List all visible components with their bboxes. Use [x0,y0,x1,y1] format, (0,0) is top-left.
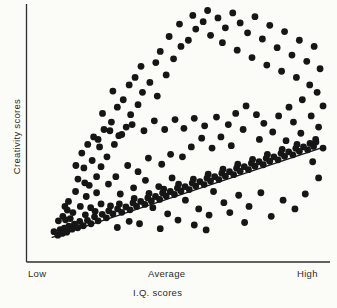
scatter-point [155,183,162,190]
scatter-point [111,141,118,148]
scatter-point [293,74,300,81]
scatter-point [67,215,74,222]
scatter-points-layer [51,7,327,238]
scatter-point [114,104,121,111]
scatter-point [315,124,322,131]
scatter-point [210,188,217,195]
scatter-point [123,124,130,131]
scatter-point [201,122,208,129]
scatter-point [127,111,134,118]
x-tick-label-high: High [297,268,318,279]
scatter-point [192,26,199,33]
scatter-point [299,96,306,103]
scatter-point [320,103,327,110]
scatter-point [286,104,293,111]
scatter-point [185,37,192,44]
scatter-point [249,54,256,61]
scatter-point [234,47,241,54]
scatter-point [169,174,176,181]
scatter-point [280,197,287,204]
scatter-point [126,218,133,225]
scatter-point [303,58,310,65]
scatter-point [198,135,205,142]
scatter-point [189,12,196,19]
scatter-point [83,193,90,200]
scatter-point [142,177,149,184]
scatter-point [257,189,264,196]
scatter-point [308,112,315,119]
scatter-point [182,197,189,204]
scatter-point [209,145,216,152]
scatter-point [266,22,273,29]
y-axis-title: Creativity scores [11,92,22,182]
scatter-point [283,137,290,144]
scatter-point [157,48,164,55]
scatter-point [166,33,173,40]
scatter-point [279,146,286,153]
scatter-point [130,184,137,191]
scatter-point [229,10,236,17]
scatter-point [188,143,195,150]
scatter-point [268,213,275,220]
scatter-point [118,131,125,138]
scatter-point [95,136,102,143]
scatter-point [161,126,168,133]
scatter-point [309,158,316,165]
scatter-point [249,156,256,163]
scatter-point [205,171,212,178]
scatter-point [259,36,266,43]
scatter-point [176,21,183,28]
scatter-point [120,96,127,103]
scatter-point [84,141,91,148]
x-axis-title: I.Q. scores [133,287,182,298]
scatter-point [175,217,182,224]
scatter-point [241,219,248,226]
scatter-point [243,103,250,110]
scatter-point [72,188,79,195]
scatter-point [81,179,88,186]
scatter-point [104,153,111,160]
scatter-point [289,52,296,59]
scatter-point [253,111,260,118]
scatter-point [191,115,198,122]
x-tick-label-low: Low [28,268,46,279]
scatter-point [129,121,136,128]
scatter-point [220,166,227,173]
scatter-point [78,150,85,157]
scatter-point [107,127,114,134]
scatter-point [72,162,79,169]
scatter-point [234,161,241,168]
scatter-point [294,141,301,148]
scatter-point [206,212,213,219]
scatter-point [93,173,100,180]
scatter-point [98,201,105,208]
scatter-point [191,222,198,229]
scatter-point [311,43,318,50]
scatter-point [178,43,185,50]
scatter-point [124,162,131,169]
scatter-point [107,203,114,210]
scatter-point [235,192,242,199]
scatter-point [112,173,119,180]
scatter-point [80,165,87,172]
scatter-point [269,129,276,136]
scatter-point [204,7,211,14]
scatter-point [101,126,108,133]
scatter-point [136,220,143,227]
scatter-point [228,142,235,149]
scatter-point [281,28,288,35]
scatter-point [226,209,233,216]
scatter-point [117,191,124,198]
scatter-point [175,181,182,188]
scatter-point [82,211,89,218]
scatter-point [70,209,77,216]
scatter-point [290,119,297,126]
scatter-point [260,120,267,127]
scatter-point [62,203,69,210]
scatter-point [317,65,324,72]
scatter-point [200,18,207,25]
scatter-point [116,201,123,208]
scatter-point [213,114,220,121]
scatter-point [163,72,170,79]
scatter-point [278,68,285,75]
